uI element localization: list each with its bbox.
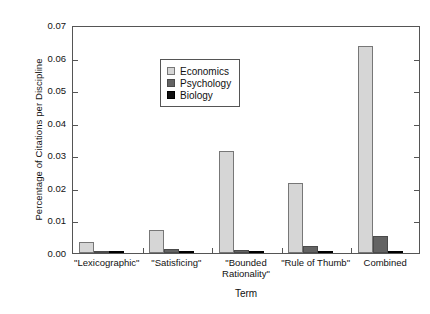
y-axis-tick-label: 0.07: [32, 21, 66, 31]
legend-item: Economics: [167, 65, 231, 77]
legend-swatch-economics: [167, 67, 175, 75]
x-axis-tick-label: Combined: [342, 257, 428, 268]
y-axis-tick-label: 0.03: [32, 151, 66, 161]
legend-label: Economics: [180, 66, 229, 77]
y-axis-tick-mark: [414, 222, 419, 223]
bar-economics: [149, 230, 164, 253]
y-axis-tick-mark: [73, 190, 78, 191]
x-axis-tick-mark: [143, 248, 144, 253]
x-axis-tick-labels: "Lexicographic""Satisficing""Bounded Rat…: [72, 257, 420, 285]
y-axis-tick-label: 0.02: [32, 184, 66, 194]
bar-psychology: [303, 246, 318, 253]
x-axis-tick-mark: [212, 248, 213, 253]
legend-swatch-biology: [167, 91, 175, 99]
chart-legend: EconomicsPsychologyBiology: [160, 59, 240, 107]
y-axis-tick-mark: [73, 157, 78, 158]
y-axis-tick-label: 0.01: [32, 216, 66, 226]
bar-economics: [288, 183, 303, 253]
y-axis-tick-mark: [414, 92, 419, 93]
bar-biology: [388, 251, 403, 253]
y-axis-tick-mark: [414, 125, 419, 126]
y-axis-tick-mark: [73, 125, 78, 126]
bar-biology: [249, 251, 264, 253]
bar-economics: [219, 151, 234, 253]
bar-economics: [358, 46, 373, 253]
bar-biology: [179, 251, 194, 253]
bar-psychology: [164, 249, 179, 253]
y-axis-tick-label: 0.05: [32, 86, 66, 96]
y-axis-tick-mark: [73, 60, 78, 61]
bar-psychology: [234, 250, 249, 253]
legend-swatch-psychology: [167, 79, 175, 87]
y-axis-tick-labels: 0.000.010.020.030.040.050.060.07: [26, 0, 66, 314]
y-axis-tick-mark: [73, 92, 78, 93]
bar-psychology: [373, 236, 388, 253]
bar-biology: [109, 251, 124, 253]
bar-biology: [318, 251, 333, 253]
y-axis-tick-label: 0.00: [32, 249, 66, 259]
legend-label: Biology: [180, 90, 213, 101]
y-axis-tick-mark: [73, 222, 78, 223]
y-axis-tick-label: 0.06: [32, 54, 66, 64]
legend-label: Psychology: [180, 78, 231, 89]
bar-economics: [79, 242, 94, 253]
y-axis-tick-mark: [414, 157, 419, 158]
bar-psychology: [94, 251, 109, 253]
y-axis-tick-mark: [414, 60, 419, 61]
legend-item: Psychology: [167, 77, 231, 89]
x-axis-tick-mark: [282, 248, 283, 253]
x-axis-title: Term: [72, 288, 420, 299]
legend-item: Biology: [167, 89, 231, 101]
x-axis-tick-mark: [351, 248, 352, 253]
y-axis-tick-label: 0.04: [32, 119, 66, 129]
plot-area: EconomicsPsychologyBiology: [72, 26, 420, 254]
y-axis-tick-mark: [414, 190, 419, 191]
chart-figure: Percentage of Citations per Discipline 0…: [0, 0, 430, 314]
